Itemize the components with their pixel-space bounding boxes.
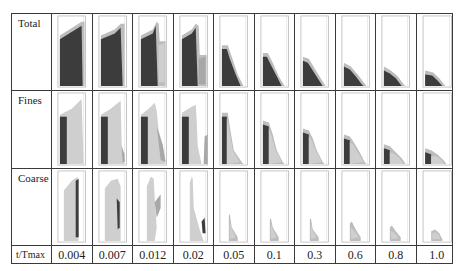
- panel-total-9: [417, 14, 458, 90]
- time-axis-label: t/Tmax: [12, 246, 52, 264]
- simulation-snapshot-figure: Total Fines Coarse t/Tmax 0.0040.0070.01…: [11, 13, 453, 264]
- panel-fines-3: [174, 91, 215, 168]
- snapshot-image: [295, 91, 335, 168]
- snapshot-image: [376, 14, 416, 90]
- snapshot-image: [93, 169, 133, 245]
- snapshot-image: [336, 169, 376, 245]
- panel-coarse-9: [417, 169, 458, 245]
- time-value-1: 0.007: [93, 246, 134, 264]
- row-time-axis: t/Tmax 0.0040.0070.0120.020.050.10.30.60…: [12, 246, 452, 264]
- snapshot-image: [93, 91, 133, 168]
- panel-coarse-7: [336, 169, 377, 245]
- snapshot-image: [133, 91, 173, 168]
- time-value-6: 0.3: [295, 246, 336, 264]
- snapshot-image: [133, 14, 173, 90]
- snapshot-image: [417, 14, 458, 90]
- panel-coarse-8: [376, 169, 417, 245]
- snapshot-image: [52, 91, 92, 168]
- snapshot-image: [52, 169, 92, 245]
- time-value-2: 0.012: [133, 246, 174, 264]
- row-label-fines: Fines: [12, 91, 52, 168]
- snapshot-image: [174, 169, 214, 245]
- time-value-8: 0.8: [376, 246, 417, 264]
- panel-fines-8: [376, 91, 417, 168]
- snapshot-image: [214, 91, 254, 168]
- panel-total-6: [295, 14, 336, 90]
- panel-total-1: [93, 14, 134, 90]
- row-fines: Fines: [12, 91, 452, 169]
- panel-total-7: [336, 14, 377, 90]
- snapshot-image: [417, 91, 458, 168]
- row-coarse: Coarse: [12, 169, 452, 246]
- time-value-7: 0.6: [336, 246, 377, 264]
- row-label-total: Total: [12, 14, 52, 90]
- panel-coarse-6: [295, 169, 336, 245]
- panel-total-2: [133, 14, 174, 90]
- snapshot-image: [214, 14, 254, 90]
- snapshot-image: [174, 14, 214, 90]
- snapshot-image: [255, 14, 295, 90]
- panel-coarse-0: [52, 169, 93, 245]
- row-total: Total: [12, 14, 452, 91]
- panel-total-8: [376, 14, 417, 90]
- time-value-3: 0.02: [174, 246, 215, 264]
- snapshot-image: [336, 14, 376, 90]
- snapshot-image: [174, 91, 214, 168]
- snapshot-image: [214, 169, 254, 245]
- time-value-9: 1.0: [417, 246, 458, 264]
- snapshot-image: [336, 91, 376, 168]
- snapshot-image: [52, 14, 92, 90]
- time-value-5: 0.1: [255, 246, 296, 264]
- snapshot-image: [376, 91, 416, 168]
- panel-coarse-4: [214, 169, 255, 245]
- panel-fines-4: [214, 91, 255, 168]
- row-label-coarse: Coarse: [12, 169, 52, 245]
- panel-total-4: [214, 14, 255, 90]
- snapshot-image: [133, 169, 173, 245]
- snapshot-image: [295, 169, 335, 245]
- panel-total-5: [255, 14, 296, 90]
- panel-coarse-2: [133, 169, 174, 245]
- panel-coarse-5: [255, 169, 296, 245]
- panel-fines-0: [52, 91, 93, 168]
- panel-fines-1: [93, 91, 134, 168]
- snapshot-image: [255, 91, 295, 168]
- snapshot-image: [295, 14, 335, 90]
- panel-total-3: [174, 14, 215, 90]
- panel-fines-9: [417, 91, 458, 168]
- panel-fines-6: [295, 91, 336, 168]
- time-value-0: 0.004: [52, 246, 93, 264]
- snapshot-image: [255, 169, 295, 245]
- time-value-4: 0.05: [214, 246, 255, 264]
- snapshot-image: [376, 169, 416, 245]
- panel-coarse-1: [93, 169, 134, 245]
- panel-total-0: [52, 14, 93, 90]
- panel-coarse-3: [174, 169, 215, 245]
- panel-fines-5: [255, 91, 296, 168]
- snapshot-image: [93, 14, 133, 90]
- panel-fines-2: [133, 91, 174, 168]
- snapshot-image: [417, 169, 458, 245]
- panel-fines-7: [336, 91, 377, 168]
